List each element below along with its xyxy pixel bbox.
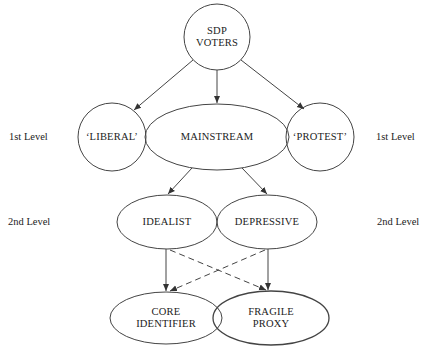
node-core-identifier-line2: IDENTIFIER [126,318,206,330]
node-fragile-proxy-line2: PROXY [231,318,311,330]
node-sdp-voters-line2: VOTERS [187,37,247,49]
edge-root-protest [241,60,304,109]
edge-mainstream-depressive [242,168,267,194]
node-depressive: DEPRESSIVE [227,216,307,228]
level-label-first-left: 1st Level [9,131,48,142]
node-fragile-proxy: FRAGILE PROXY [231,306,311,330]
diagram-canvas [0,0,428,352]
level-label-second-right: 2nd Level [377,216,419,227]
node-idealist: IDEALIST [127,216,207,228]
node-core-identifier-line1: CORE [126,306,206,318]
level-label-second-left: 2nd Level [8,216,50,227]
edge-root-liberal [134,60,193,110]
node-core-identifier: CORE IDENTIFIER [126,306,206,330]
node-protest: ‘PROTEST’ [285,131,355,143]
node-mainstream: MAINSTREAM [167,131,267,143]
node-liberal: ‘LIBERAL’ [77,131,147,143]
edge-mainstream-idealist [168,168,192,194]
level-label-first-right: 1st Level [376,131,415,142]
node-fragile-proxy-line1: FRAGILE [231,306,311,318]
node-sdp-voters: SDP VOTERS [187,25,247,49]
node-sdp-voters-line1: SDP [187,25,247,37]
